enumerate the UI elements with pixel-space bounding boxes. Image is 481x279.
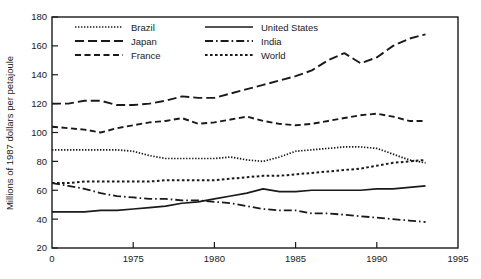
x-axis-tick-label: 1980 — [204, 253, 225, 264]
chart-canvas: 2040608010012014016018001975198019851990… — [0, 0, 481, 279]
y-axis-tick-label: 140 — [31, 69, 47, 80]
line-chart: 2040608010012014016018001975198019851990… — [0, 0, 481, 279]
x-axis-tick-label: 1985 — [285, 253, 306, 264]
y-axis-tick-label: 160 — [31, 40, 47, 51]
y-axis-tick-label: 120 — [31, 98, 47, 109]
legend-label-japan: Japan — [131, 36, 157, 47]
legend-label-world: World — [261, 50, 286, 61]
x-axis-tick-label: 1995 — [447, 253, 468, 264]
legend-label-france: France — [131, 50, 161, 61]
x-axis-tick-label: 1990 — [366, 253, 387, 264]
legend-label-india: India — [261, 36, 282, 47]
legend-label-united-states: United States — [261, 22, 318, 33]
y-axis-tick-label: 40 — [36, 214, 47, 225]
y-axis-tick-label: 20 — [36, 242, 47, 253]
legend-label-brazil: Brazil — [131, 22, 155, 33]
y-axis-tick-label: 80 — [36, 156, 47, 167]
y-axis-tick-label: 180 — [31, 11, 47, 22]
y-axis-tick-label: 100 — [31, 127, 47, 138]
x-axis-tick-label: 1975 — [123, 253, 144, 264]
y-axis-title: Millions of 1987 dollars per petajoule — [4, 56, 15, 210]
y-axis-tick-label: 60 — [36, 185, 47, 196]
x-axis-tick-label: 0 — [49, 253, 54, 264]
